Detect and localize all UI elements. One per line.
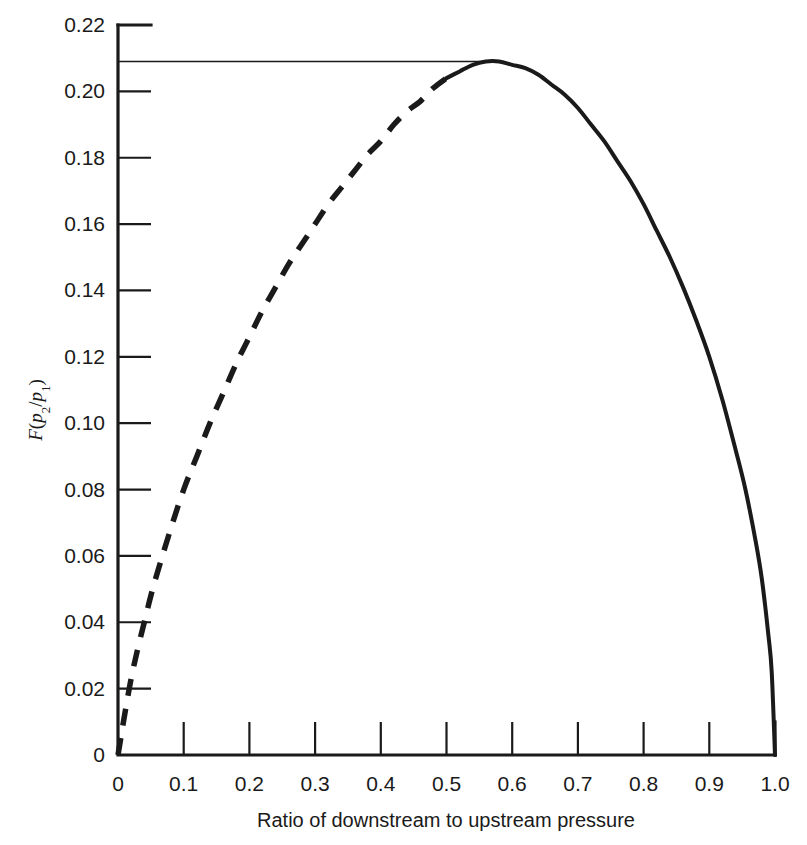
y-axis-title-close-paren: ) [25,379,47,385]
axis-frame [118,25,775,755]
y-tick-label: 0.20 [64,79,105,102]
y-tick-label: 0.22 [64,13,105,36]
x-tick-label: 0.8 [629,772,658,795]
x-tick-label: 0.5 [432,772,461,795]
chart-figure: 00.020.040.060.080.100.120.140.160.180.2… [0,0,807,845]
y-tick-label: 0.04 [64,610,105,633]
y-tick-label: 0.02 [64,677,105,700]
y-axis-title-p1: p [25,392,46,404]
x-axis-title: Ratio of downstream to upstream pressure [257,809,635,831]
y-tick-label: 0 [93,743,105,766]
flow-function-solid-curve [447,61,776,755]
y-axis-title-text: F(p2/p1) [25,379,53,442]
y-tick-label: 0.08 [64,478,105,501]
y-tick-label: 0.10 [64,411,105,434]
y-tick-label: 0.18 [64,146,105,169]
y-tick-label: 0.16 [64,212,105,235]
x-axis-tick-labels: 00.10.20.30.40.50.60.70.80.91.0 [112,772,789,795]
flow-function-dashed-curve [118,78,447,755]
x-tick-label: 0 [112,772,124,795]
y-tick-label: 0.14 [64,278,105,301]
x-tick-label: 0.1 [169,772,198,795]
y-axis-tick-labels: 00.020.040.060.080.100.120.140.160.180.2… [64,13,105,766]
y-axis-title-f: F [25,429,46,442]
y-axis-title-p2: p [25,413,46,425]
x-tick-label: 0.7 [563,772,592,795]
x-tick-label: 1.0 [760,772,789,795]
tick-marks-group [118,25,709,755]
x-tick-label: 0.3 [300,772,329,795]
y-tick-label: 0.06 [64,544,105,567]
x-tick-label: 0.2 [235,772,264,795]
y-axis-title: F(p2/p1) [25,379,53,442]
flow-function-chart: 00.020.040.060.080.100.120.140.160.180.2… [0,0,807,845]
x-tick-label: 0.6 [498,772,527,795]
x-tick-label: 0.9 [695,772,724,795]
y-tick-label: 0.12 [64,345,105,368]
x-tick-label: 0.4 [366,772,396,795]
